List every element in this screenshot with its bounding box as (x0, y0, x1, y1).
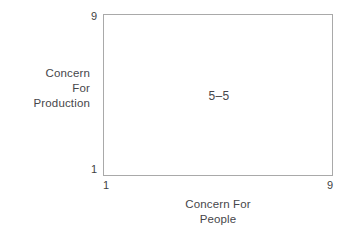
y-axis-title-line-1: Concern (0, 66, 90, 81)
y-axis-tick-top: 9 (91, 11, 97, 22)
x-axis-title-line-1: Concern For (103, 197, 333, 212)
y-axis-title: Concern For Production (0, 66, 90, 111)
x-axis-tick-right: 9 (0, 180, 333, 191)
plot-area: 5–5 (103, 14, 333, 176)
managerial-grid-figure: Concern For Production 9 1 5–5 1 9 Conce… (0, 0, 345, 236)
grid-cell-label-5-5: 5–5 (104, 15, 334, 177)
x-axis-title-line-2: People (103, 212, 333, 227)
y-axis-tick-bottom: 1 (91, 164, 97, 175)
x-axis-title: Concern For People (103, 197, 333, 227)
y-axis-title-line-3: Production (0, 96, 90, 111)
y-axis-title-line-2: For (0, 81, 90, 96)
